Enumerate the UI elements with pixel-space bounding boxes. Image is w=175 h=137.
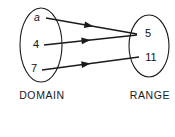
mapping-diagram: a47 511 DOMAIN RANGE bbox=[0, 0, 175, 137]
domain-element-a: a bbox=[34, 11, 40, 23]
range-elements-group: 511 bbox=[145, 27, 157, 63]
domain-element-7: 7 bbox=[31, 62, 37, 74]
range-caption: RANGE bbox=[130, 89, 170, 101]
arrow-head bbox=[81, 61, 90, 68]
range-oval bbox=[129, 15, 169, 77]
mapping-arrows-group bbox=[42, 18, 139, 70]
domain-caption: DOMAIN bbox=[19, 89, 65, 101]
arrow-head bbox=[84, 21, 93, 28]
arrow-head bbox=[81, 38, 90, 45]
range-element-5: 5 bbox=[145, 27, 151, 39]
domain-elements-group: a47 bbox=[31, 11, 40, 74]
mapping-arrow-7-to-11 bbox=[42, 57, 139, 70]
domain-element-4: 4 bbox=[33, 38, 39, 50]
diagram-canvas: a47 511 DOMAIN RANGE bbox=[0, 0, 175, 137]
mapping-arrow-4-to-5 bbox=[44, 35, 137, 45]
range-element-11: 11 bbox=[145, 51, 156, 63]
